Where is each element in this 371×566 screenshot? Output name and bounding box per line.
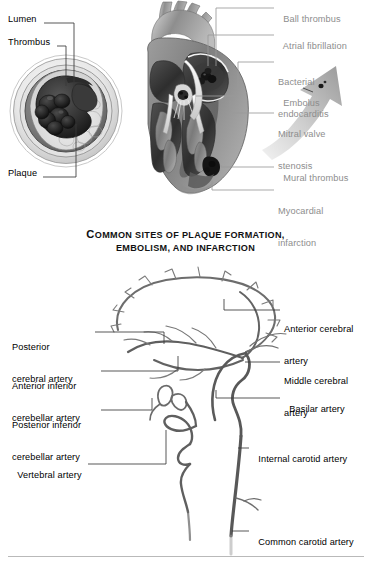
label-anterior-inferior-cerebellar-artery-line1: Anterior inferior [12,381,80,392]
footer-divider [8,556,364,557]
label-internal-carotid-artery-line1: Internal carotid artery [258,454,347,464]
label-internal-carotid-artery: Internal carotid artery [253,443,347,464]
label-vertebral-artery-line1: Vertebral artery [17,470,81,480]
label-lumen: Lumen [8,14,37,25]
label-posterior-cerebral-artery-line1: Posterior [12,342,73,353]
label-vertebral-artery: Vertebral artery [12,459,82,480]
label-thrombus: Thrombus [8,37,50,48]
label-common-carotid-artery-line1: Common carotid artery [258,537,353,547]
label-myocardial-infarction-line1: Myocardial [278,206,323,217]
label-anterior-cerebral-artery-line1: Anterior cerebral [284,324,353,335]
label-plaque: Plaque [8,168,37,179]
label-basilar-artery: Basilar artery [284,393,345,414]
label-ball-thrombus-line1: Ball thrombus [283,14,340,24]
label-embolus: Embolus [278,87,320,108]
label-middle-cerebral-artery-line1: Middle cerebral [284,376,348,387]
label-atrial-fibrillation: Atrial fibrillation [278,30,347,51]
figure-caption-line2: EMBOLISM, AND INFARCTION [0,242,371,255]
label-basilar-artery-line1: Basilar artery [289,404,344,414]
label-posterior-inferior-cerebellar-artery-line1: Posterior inferior [12,420,81,431]
figure-caption-line1: COMMON SITES OF PLAQUE FORMATION, [0,228,371,242]
label-ball-thrombus: Ball thrombus [278,3,341,24]
label-atrial-fibrillation-line1: Atrial fibrillation [283,41,347,51]
label-mitral-valve-stenosis-line1: Mitral valve [278,129,326,140]
label-mural-thrombus: Mural thrombus [278,162,348,183]
figure-caption-line1-lead: C [86,228,94,240]
figure-caption: COMMON SITES OF PLAQUE FORMATION, EMBOLI… [0,228,371,254]
label-common-carotid-artery: Common carotid artery [253,526,354,547]
label-mural-thrombus-line1: Mural thrombus [283,173,348,183]
figure-caption-line1-rest: OMMON SITES OF PLAQUE FORMATION, [95,230,285,240]
label-embolus-line1: Embolus [283,98,319,108]
heart-cutaway [148,1,249,194]
